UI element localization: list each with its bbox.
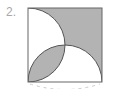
dashed-lower-arc	[30, 84, 100, 89]
geometry-figure	[0, 0, 115, 89]
